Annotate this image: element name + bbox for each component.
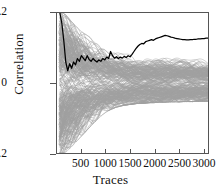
y-tick-label-1: 0 (1, 76, 7, 88)
x-axis-title: Traces (0, 172, 221, 188)
plot-area (56, 12, 209, 154)
wrong-key-traces (59, 13, 208, 153)
x-tick-label: 500 (72, 157, 89, 169)
x-tick-label: 2000 (143, 157, 166, 169)
y-tick-label-2: −0.2 (0, 147, 7, 159)
x-tick-mark (81, 149, 82, 154)
y-axis-title: Correlation (11, 4, 27, 124)
x-tick-mark (179, 149, 180, 154)
x-tick-mark (155, 149, 156, 154)
y-tick-mark (50, 83, 56, 84)
y-tick-mark (50, 154, 56, 155)
x-tick-mark (130, 149, 131, 154)
x-tick-label: 3000 (193, 157, 216, 169)
x-tick-label: 2500 (168, 157, 191, 169)
x-tick-mark (105, 149, 106, 154)
x-tick-mark (204, 149, 205, 154)
x-tick-label: 1000 (94, 157, 117, 169)
y-tick-mark (50, 12, 56, 13)
x-tick-label: 1500 (119, 157, 142, 169)
figure: Correlation 0.2 0 −0.2 Traces 5001000150… (0, 0, 221, 192)
plot-canvas (57, 13, 208, 153)
y-tick-label-0: 0.2 (0, 5, 7, 17)
